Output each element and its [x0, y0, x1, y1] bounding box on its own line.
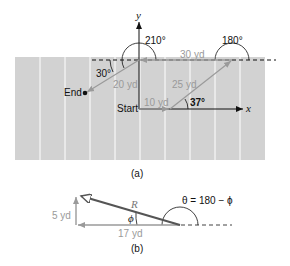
angle-37-label: 37° — [190, 97, 205, 108]
start-label: Start — [117, 103, 138, 114]
caption-a: (a) — [131, 168, 143, 179]
arc-phi — [136, 212, 137, 225]
vector-10yd-label: 10 yd — [144, 97, 168, 108]
horizontal-component-label: 17 yd — [118, 228, 142, 239]
vector-diagram: y x 210° 180° 30 yd 30° 20 yd 25 yd End … — [0, 0, 290, 266]
x-axis-label: x — [245, 102, 251, 114]
vertical-component-label: 5 yd — [52, 210, 71, 221]
theta-label: θ = 180 − ϕ — [182, 195, 233, 206]
vector-20yd-label: 20 yd — [113, 79, 137, 90]
figure-a: y x 210° 180° 30 yd 30° 20 yd 25 yd End … — [15, 9, 276, 179]
end-point — [83, 91, 88, 96]
end-label: End — [64, 87, 82, 98]
angle-30-label: 30° — [96, 68, 111, 79]
resultant-label: R — [130, 198, 138, 210]
phi-label: ϕ — [128, 212, 134, 224]
caption-b: (b) — [131, 243, 143, 254]
figure-b: R ϕ θ = 180 − ϕ 5 yd 17 yd (b) — [52, 195, 233, 254]
y-axis-label: y — [135, 9, 141, 21]
vector-25yd-label: 25 yd — [172, 79, 196, 90]
angle-180-label: 180° — [222, 35, 243, 46]
angle-210-label: 210° — [145, 35, 166, 46]
vector-30yd-label: 30 yd — [180, 49, 204, 60]
